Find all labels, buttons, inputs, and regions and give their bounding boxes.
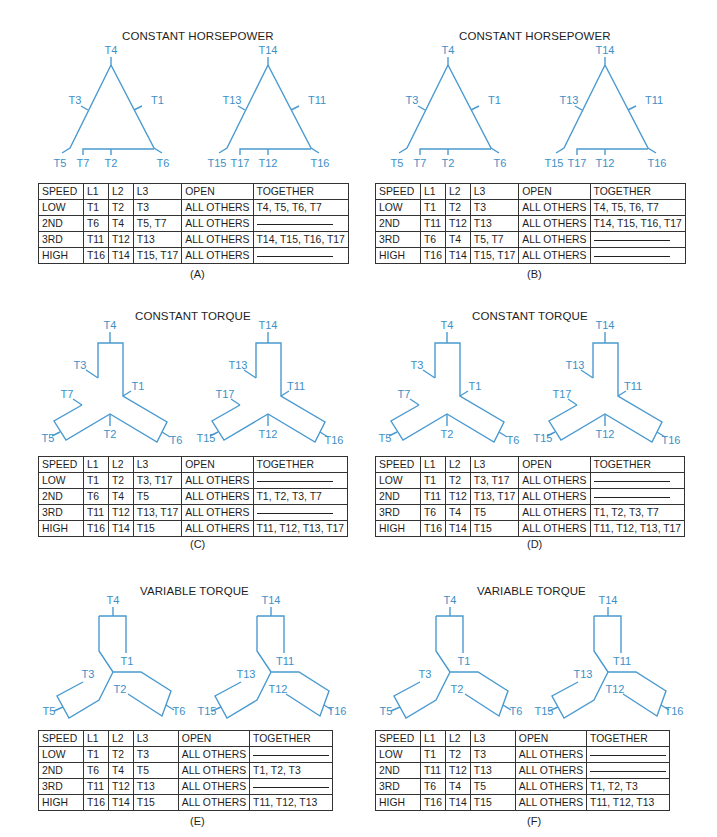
none-dash (257, 513, 333, 514)
table-cell: 2ND (376, 216, 421, 232)
terminal-label-bottom-left: T15 (208, 157, 227, 169)
table-cell: T1 (421, 747, 446, 763)
lead-t3 (244, 370, 256, 378)
table-cell (253, 505, 348, 521)
table-cell: T14 (445, 795, 470, 811)
terminal-label-right: T1 (488, 94, 501, 106)
terminal-label-top: T14 (262, 594, 281, 606)
table-cell: T11, T12, T13 (250, 795, 333, 811)
table-cell: LOW (376, 473, 421, 489)
table-cell: T5, T7 (470, 232, 518, 248)
column-header: L3 (470, 731, 515, 747)
column-header: L3 (133, 731, 178, 747)
figure-caption: (D) (527, 538, 542, 550)
table-cell: T16 (421, 521, 446, 537)
table-cell: T1, T2, T3 (587, 779, 670, 795)
table-cell: ALL OTHERS (182, 200, 253, 216)
table-header-row: SPEEDL1L2L3OPENTOGETHER (376, 731, 670, 747)
table-cell: T16 (421, 795, 446, 811)
table-cell: 2ND (376, 489, 421, 505)
winding-bottom (577, 149, 648, 155)
table-cell: T3 (470, 200, 518, 216)
table-cell: T16 (421, 248, 446, 264)
terminal-label-bottom-left: T5 (380, 705, 393, 717)
table-cell: LOW (376, 747, 421, 763)
table-cell: T13, T17 (470, 489, 518, 505)
column-header: L1 (84, 184, 109, 200)
winding-upper (436, 616, 450, 672)
table-cell: ALL OTHERS (182, 505, 253, 521)
terminal-label-t1: T11 (276, 655, 294, 667)
table-cell: T14, T15, T16, T17 (253, 232, 348, 248)
column-header: L2 (108, 184, 133, 200)
column-header: TOGETHER (253, 457, 348, 473)
table-row: 2NDT11T12T13ALL OTHERST14, T15, T16, T17 (376, 216, 686, 232)
none-dash (594, 481, 670, 482)
table-row: 3RDT11T12T13, T17ALL OTHERS (39, 505, 348, 521)
column-header: OPEN (182, 457, 253, 473)
table-cell: T1 (421, 473, 446, 489)
table-cell: T2 (108, 747, 133, 763)
terminal-label-bottom-right: T16 (311, 157, 330, 169)
table-cell: T2 (445, 747, 470, 763)
table-cell: T4 (445, 505, 470, 521)
figure-caption: (C) (190, 538, 205, 550)
winding-diagram: T4T1T3T2T5T6T14T11T13T12T15T16 (0, 593, 358, 733)
column-header: TOGETHER (590, 184, 685, 200)
terminal-label-t1: T1 (121, 655, 134, 667)
table-cell: ALL OTHERS (519, 521, 590, 537)
lead-left-mid (81, 106, 88, 110)
table-cell: T4, T5, T6, T7 (590, 200, 685, 216)
winding-t4-t1 (594, 616, 621, 653)
table-cell: ALL OTHERS (182, 489, 253, 505)
terminal-label-bottom-left: T15 (535, 705, 554, 717)
table-cell: ALL OTHERS (515, 763, 586, 779)
table-cell: LOW (39, 473, 84, 489)
none-dash (594, 497, 670, 498)
terminal-label-bottom-left: T15 (197, 432, 216, 444)
table-cell: T6 (421, 779, 446, 795)
table-row: LOWT1T2T3, T17ALL OTHERS (39, 473, 348, 489)
table-cell: T2 (445, 200, 470, 216)
terminal-label-bottom-mid1: T7 (77, 157, 90, 169)
lead-t1 (460, 391, 468, 396)
table-cell: 3RD (39, 232, 84, 248)
terminal-label-bottom-right: T16 (665, 705, 684, 717)
table-cell (250, 779, 333, 795)
none-dash (590, 755, 666, 756)
terminal-label-t3: T3 (419, 668, 432, 680)
table-cell: LOW (376, 200, 421, 216)
table-cell: ALL OTHERS (519, 216, 590, 232)
table-row: LOWT1T2T3ALL OTHERST4, T5, T6, T7 (376, 200, 686, 216)
table-cell: T15 (133, 521, 181, 537)
winding-upper (257, 616, 271, 672)
table-cell: ALL OTHERS (178, 747, 249, 763)
table-cell: T12 (445, 763, 470, 779)
none-dash (594, 240, 670, 241)
table-cell: T14 (445, 248, 470, 264)
terminal-label-t3: T3 (74, 359, 87, 371)
table-cell: ALL OTHERS (519, 505, 590, 521)
column-header: OPEN (519, 457, 590, 473)
winding-diagram: T4T3T1T7T2T5T6T14T13T11T17T12T15T16 (337, 318, 695, 458)
table-row: 2NDT6T4T5ALL OTHERST1, T2, T3 (39, 763, 333, 779)
table-cell: T1 (84, 473, 109, 489)
terminal-label-bottom-left: T5 (42, 432, 55, 444)
table-cell: T14 (108, 795, 133, 811)
column-header: L2 (445, 184, 470, 200)
terminal-label-top: T4 (441, 319, 454, 331)
table-row: LOWT1T2T3ALL OTHERS (39, 747, 333, 763)
column-header: L1 (421, 457, 446, 473)
winding-bottom (420, 149, 491, 155)
table-header-row: SPEEDL1L2L3OPENTOGETHER (39, 184, 349, 200)
table-row: 2NDT11T12T13ALL OTHERS (376, 763, 670, 779)
column-header: L2 (108, 457, 133, 473)
terminal-label-bottom-left: T5 (391, 157, 404, 169)
terminal-label-top: T14 (596, 319, 615, 331)
column-header: SPEED (376, 457, 421, 473)
winding-diagram: T4T3T1T7T2T5T6T14T13T11T17T12T15T16 (0, 318, 358, 458)
table-cell (590, 248, 685, 264)
table-cell: ALL OTHERS (515, 795, 586, 811)
table-header-row: SPEEDL1L2L3OPENTOGETHER (376, 457, 685, 473)
table-cell: T1, T2, T3, T7 (253, 489, 348, 505)
